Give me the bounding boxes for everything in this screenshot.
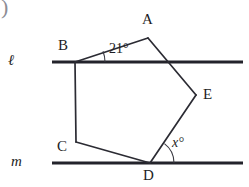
- edge-BC: [75, 62, 76, 142]
- vertex-label-D: D: [143, 168, 154, 183]
- vertex-label-C: C: [57, 139, 67, 154]
- line-label-l: ℓ: [8, 53, 14, 68]
- geometry-figure: ) ℓ m A B C D E 21° x°: [0, 0, 249, 187]
- vertex-label-B: B: [58, 38, 68, 53]
- vertex-label-A: A: [142, 12, 153, 27]
- edge-CD: [76, 142, 150, 163]
- vertex-label-E: E: [203, 87, 212, 102]
- angle-label-x-degrees: x°: [172, 136, 184, 150]
- line-label-m: m: [11, 154, 22, 169]
- edge-EA: [148, 38, 196, 95]
- angle-label-21-degrees: 21°: [109, 42, 129, 56]
- edge-DE: [150, 95, 196, 163]
